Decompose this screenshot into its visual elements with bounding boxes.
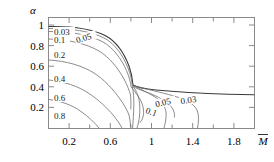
x-axis-title-group: M <box>257 135 268 148</box>
contour-label-text: 0.8 <box>54 111 66 121</box>
x-tick-label-0-2: 0.2 <box>62 135 76 147</box>
x-tick-label-1-4: 1.4 <box>186 135 200 147</box>
contour-label-text: 0.2 <box>54 50 65 60</box>
contour-plot-figure: 0.03 0.05 0.1 0.2 0.4 0.6 0.8 <box>0 0 274 162</box>
x-axis-top-ticks <box>69 18 234 23</box>
contour-label-0-2-left: 0.2 <box>53 50 70 60</box>
y-tick-label-1: 1 <box>39 19 45 31</box>
contour-label-text: 0.1 <box>54 35 65 45</box>
contour-lobe-inner <box>132 87 133 128</box>
y-tick-label-0-8: 0.8 <box>30 40 44 52</box>
contour-label-0-03-right: 0.03 <box>179 93 202 106</box>
x-axis-ticks <box>69 123 234 128</box>
contour-label-text: 0.4 <box>54 74 66 84</box>
contour-label-text: 0.03 <box>180 94 197 106</box>
plot-canvas: 0.03 0.05 0.1 0.2 0.4 0.6 0.8 <box>0 0 274 162</box>
y-tick-label-0-4: 0.4 <box>30 81 44 93</box>
x-tick-label-1: 1 <box>149 135 155 147</box>
contour-label-0-05-left: 0.05 <box>74 30 98 46</box>
contour-label-0-05-right: 0.05 <box>153 95 177 110</box>
y-axis-title: α <box>30 4 36 16</box>
contour-label-0-4-left: 0.4 <box>53 74 70 84</box>
contour-label-0-8-left: 0.8 <box>53 111 70 121</box>
contour-label-text: 0.05 <box>154 96 172 109</box>
x-tick-label-1-8: 1.8 <box>227 135 241 147</box>
x-axis-title: M <box>257 135 268 147</box>
contour-label-text: 0.6 <box>54 93 66 103</box>
contour-label-0-6-left: 0.6 <box>53 93 70 103</box>
y-tick-label-0-2: 0.2 <box>30 101 44 113</box>
y-tick-label-0-6: 0.6 <box>30 60 44 72</box>
x-tick-label-0-6: 0.6 <box>103 135 117 147</box>
contour-label-0-1-left: 0.1 <box>53 35 70 45</box>
